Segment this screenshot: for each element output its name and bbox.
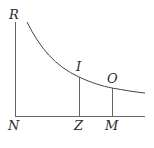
label-m: M bbox=[104, 118, 119, 133]
hyperbola-curve bbox=[27, 22, 145, 93]
diagram-canvas: R N Z M I O bbox=[0, 0, 154, 148]
label-o: O bbox=[107, 71, 118, 86]
label-z: Z bbox=[73, 118, 84, 133]
label-i: I bbox=[75, 59, 82, 74]
label-n: N bbox=[7, 118, 20, 133]
label-r: R bbox=[8, 7, 19, 22]
